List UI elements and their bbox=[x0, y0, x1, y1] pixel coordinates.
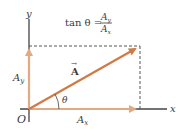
x-component-label: Ax bbox=[76, 114, 88, 127]
vector-label: A bbox=[70, 66, 79, 77]
origin-label: O bbox=[17, 113, 26, 126]
angle-label: θ bbox=[62, 95, 68, 105]
angle-arc bbox=[55, 94, 59, 109]
formula-denominator: Ax bbox=[100, 24, 112, 35]
y-component-label: Ay bbox=[12, 72, 25, 85]
vector-diagram: y x O θ → A Ay Ax tan θ = Ay Ax bbox=[0, 0, 186, 134]
vector-a bbox=[29, 49, 135, 109]
formula-lhs: tan θ = bbox=[65, 17, 102, 28]
x-axis-label: x bbox=[170, 103, 176, 114]
y-axis-label: y bbox=[25, 8, 32, 19]
